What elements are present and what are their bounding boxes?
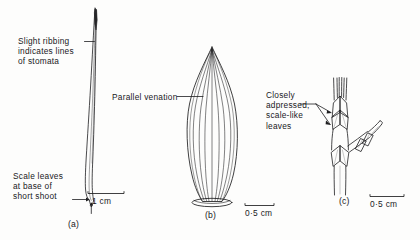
branch-scale-leaf-1 xyxy=(356,139,367,152)
label-adpressed-leaves-line1: Closely xyxy=(266,90,295,100)
panel-b-drawing xyxy=(187,47,237,207)
leaf-veins xyxy=(193,49,231,201)
scale-leaf-lower-keel-left xyxy=(335,150,338,164)
caption-panel-c: (c) xyxy=(339,196,350,206)
label-adpressed-leaves-line4: leaves xyxy=(266,121,291,131)
label-adpressed-leaves-line3: scale-like xyxy=(266,110,303,120)
scale-leaf-upper-keel-left xyxy=(334,115,337,127)
label-scale-leaves: Scale leavesat base ofshort shoot xyxy=(13,171,63,202)
scale-bar-panel-c xyxy=(370,194,404,196)
panel-c-drawing xyxy=(331,78,382,196)
scale-leaf-lower-left xyxy=(331,146,340,167)
label-adpressed-leaves-line2: adpressed, xyxy=(266,100,310,110)
scale-leaf-lower-keel-right xyxy=(342,150,345,164)
label-parallel-venation: Parallel venation xyxy=(112,92,178,102)
scale-bar-label-panel-c: 0·5 cm xyxy=(370,199,397,209)
scale-leaf-lower-right xyxy=(340,146,349,167)
label-scale-leaves-line1: Scale leaves xyxy=(13,171,63,181)
caption-panel-b: (b) xyxy=(205,210,216,220)
branch-apex-lower xyxy=(371,125,382,137)
label-slight-ribbing-line1: Slight ribbing xyxy=(18,36,69,46)
scale-leaf-upper-keel-right xyxy=(342,115,345,127)
caption-panel-a: (a) xyxy=(68,219,79,229)
label-scale-leaves-line2: at base of xyxy=(13,181,52,191)
scale-bar-label-panel-b: 0·5 cm xyxy=(245,208,272,218)
scale-bar-panel-a xyxy=(88,191,124,193)
stem-mid-right xyxy=(347,129,349,150)
scale-bar-label-panel-a: 1 cm xyxy=(92,196,111,206)
needle-left-edge xyxy=(85,9,95,201)
label-slight-ribbing-line3: of stomata xyxy=(18,56,59,66)
botanical-figure: Slight ribbingindicates linesof stomata … xyxy=(0,0,420,240)
panel-a-drawing xyxy=(85,8,97,214)
shoot-tip-right xyxy=(346,78,347,100)
label-parallel-venation-line1: Parallel venation xyxy=(112,92,178,102)
branch-apex-tip xyxy=(380,121,382,125)
scale-bar-panel-b xyxy=(245,203,274,205)
label-slight-ribbing-line2: indicates lines xyxy=(18,46,74,56)
label-slight-ribbing: Slight ribbingindicates linesof stomata xyxy=(18,36,74,67)
shoot-tip-right-inner xyxy=(344,78,345,98)
branch-apex-upper xyxy=(368,121,380,132)
label-adpressed-leaves: Closelyadpressed,scale-likeleaves xyxy=(266,90,310,131)
stem-mid-left xyxy=(332,129,334,150)
label-scale-leaves-line3: short shoot xyxy=(13,191,57,201)
shoot-tip-left xyxy=(334,78,335,100)
